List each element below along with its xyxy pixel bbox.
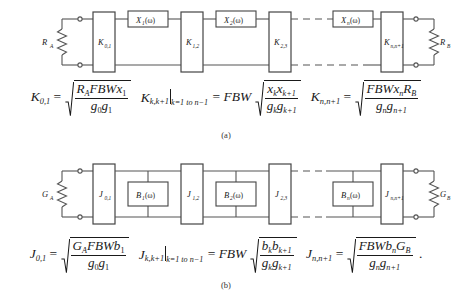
label-resonator-b1-arg: (ω)	[145, 191, 156, 200]
label-resonator-bn-arg: (ω)	[350, 191, 361, 200]
eq-j01-num-G: G	[73, 238, 82, 253]
label-source-resistor-a-sub: A	[49, 43, 54, 49]
eq-k01-num-R: R	[77, 81, 85, 96]
eq-jkk1-prefix: FBW	[219, 246, 247, 261]
eq-knn1-lhs: K	[311, 89, 320, 104]
radical-sign-icon	[65, 81, 74, 117]
eq-knn1-num-R-sub: B	[411, 89, 416, 98]
output-terminal-top-a	[414, 17, 418, 21]
eq-k01-lhs: K	[31, 89, 40, 104]
eq-jkk1-equals: =	[208, 246, 216, 261]
eq-jnn1-fraction: FBWbnGB gngn+1	[357, 239, 413, 273]
eq-k01-den-g1-sub: 1	[108, 106, 112, 115]
eq-knn1-radical: FBWxnRB gngn+1	[355, 80, 422, 116]
label-load-conductance-b: G	[440, 189, 446, 199]
eq-kkk1-lhs: K	[141, 89, 150, 104]
label-source-conductance-a: G	[42, 189, 48, 199]
eq-j01-num-fbw: FBW	[87, 238, 114, 253]
eq-jnn1-num-G: G	[396, 238, 405, 253]
label-load-resistor-b-sub: B	[447, 43, 451, 49]
radical-sign-icon	[250, 238, 259, 274]
label-resonator-bn: B	[341, 190, 346, 200]
eq-k01-num-x-sub: 1	[122, 89, 126, 98]
eq-jkk1-eval-range: k=1 to n−1	[166, 255, 203, 264]
label-load-conductance-b-sub: B	[447, 195, 451, 201]
label-inverter-k23-sub: 2,3	[281, 43, 288, 49]
label-resonator-b1: B	[136, 190, 141, 200]
eq-knn1-num-fbw: FBW	[367, 81, 394, 96]
eq-kkk1-radical: xkxk+1 gkgk+1	[255, 80, 302, 116]
eq-k01-num-fbw: FBW	[90, 81, 117, 96]
eq-jkk1-radical: bkbk+1 gkgk+1	[250, 237, 297, 273]
label-resonator-x1: X	[135, 15, 142, 25]
eq-kkk1-num-xk1-sub: k+1	[283, 89, 296, 98]
radical-sign-icon	[255, 81, 264, 117]
eq-k01-fraction: RAFBWx1 g0g1	[75, 82, 129, 116]
eq-j01-radical: GAFBWb1 g0g1	[61, 237, 130, 273]
equation-row-b: J0,1 = GAFBWb1 g0g1 Jk,k+1k=1 to n−1 = F…	[0, 237, 452, 273]
equation-kkk1: Kk,k+1k=1 to n−1 = FBW xkxk+1 gkgk+1	[141, 80, 302, 116]
label-resonator-x2-arg: (ω)	[233, 16, 244, 25]
eq-k01-equals: =	[54, 89, 62, 104]
input-terminal-top-b	[78, 169, 82, 173]
circuit-diagram-b: G A J 0,1 B 1 (ω) J 1,2 B 2 (ω)	[0, 158, 452, 228]
radical-sign-icon	[61, 238, 70, 274]
label-source-conductance-a-sub: A	[49, 195, 54, 201]
eq-kkk1-lhs-sub: k,k+1	[150, 97, 169, 106]
eq-kkk1-den-gk1-sub: k+1	[283, 106, 296, 115]
circuit-diagram-a: R A K 0,1 X 1 (ω) K 1,2 X 2 (ω) K	[0, 6, 452, 76]
output-terminal-top-b	[414, 169, 418, 173]
label-resonator-x2: X	[223, 15, 230, 25]
eq-j01-num-b-sub: 1	[120, 246, 124, 255]
caption-a: (a)	[0, 130, 452, 140]
eq-jkk1-den-gk1-sub: k+1	[278, 263, 291, 272]
eq-jnn1-den-gn1-sub: n+1	[386, 263, 400, 272]
eq-jnn1-equals: =	[336, 246, 344, 261]
eq-jnn1-radical: FBWbnGB gngn+1	[347, 237, 416, 273]
input-terminal-bottom-a	[78, 63, 82, 67]
eq-knn1-den-gn1-sub: n+1	[393, 106, 407, 115]
label-load-resistor-b: R	[439, 37, 446, 47]
label-resonator-b2-arg: (ω)	[233, 191, 244, 200]
label-source-resistor-a: R	[41, 37, 48, 47]
label-inverter-j23-sub: 2,3	[281, 195, 288, 201]
eq-j01-den-g1-sub: 1	[105, 263, 109, 272]
eq-kkk1-equals: =	[213, 89, 221, 104]
label-resonator-x1-arg: (ω)	[145, 16, 156, 25]
label-inverter-j01-sub: 0,1	[105, 195, 112, 201]
eq-kkk1-eval-range: k=1 to n−1	[171, 98, 208, 107]
eq-j01-fraction: GAFBWb1 g0g1	[71, 239, 127, 273]
radical-sign-icon	[355, 81, 364, 117]
eq-jnn1-num-G-sub: B	[406, 246, 411, 255]
eq-j01-equals: =	[50, 246, 58, 261]
eq-kkk1-prefix: FBW	[224, 89, 252, 104]
eq-jnn1-lhs-sub: n,n+1	[312, 254, 332, 263]
input-terminal-bottom-b	[78, 215, 82, 219]
eq-jkk1-fraction: bkbk+1 gkgk+1	[260, 239, 294, 273]
equation-row-a: K0,1 = RAFBWx1 g0g1 Kk,k+1k=1 to n−1 = F…	[0, 80, 452, 116]
label-inverter-jnn1-sub: n,n+1	[391, 195, 404, 201]
eq-jnn1-num-fbw: FBW	[359, 238, 386, 253]
equation-j01: J0,1 = GAFBWb1 g0g1	[30, 237, 130, 273]
eq-k01-radical: RAFBWx1 g0g1	[65, 80, 132, 116]
source-resistor-a: R A	[41, 19, 80, 65]
eq-knn1-lhs-sub: n,n+1	[320, 97, 340, 106]
label-inverter-j12-sub: 1,2	[193, 195, 200, 201]
eq-jkk1-lhs-sub: k,k+1	[145, 254, 164, 263]
label-inverter-k01-sub: 0,1	[105, 43, 112, 49]
eq-k01-lhs-sub: 0,1	[40, 97, 50, 106]
equation-knn1: Kn,n+1 = FBWxnRB gngn+1	[311, 80, 421, 116]
equation-jkk1: Jk,k+1k=1 to n−1 = FBW bkbk+1 gkgk+1	[139, 237, 297, 273]
eq-knn1-fraction: FBWxnRB gngn+1	[365, 82, 419, 116]
radical-sign-icon	[347, 238, 356, 274]
source-conductance-a: G A	[42, 171, 80, 217]
eq-jnn1-period: .	[419, 246, 422, 261]
eq-knn1-equals: =	[344, 89, 352, 104]
input-terminal-top-a	[78, 17, 82, 21]
label-inverter-knn1-sub: n,n+1	[391, 43, 404, 49]
equation-k01: K0,1 = RAFBWx1 g0g1	[31, 80, 132, 116]
label-resonator-xn: X	[340, 15, 347, 25]
caption-b: (b)	[0, 280, 452, 290]
label-inverter-k12-sub: 1,2	[193, 43, 200, 49]
label-resonator-xn-arg: (ω)	[350, 16, 361, 25]
